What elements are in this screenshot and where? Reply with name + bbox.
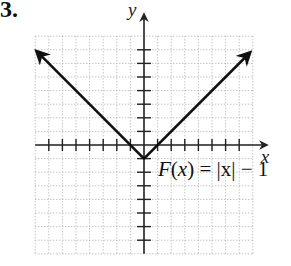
y-axis-label: y	[126, 0, 137, 20]
function-name: F	[158, 157, 171, 181]
function-var: x	[178, 157, 187, 181]
function-rhs: = |x| − 1	[199, 157, 268, 181]
function-label: F(x) = |x| − 1	[158, 157, 268, 182]
graph: xy	[0, 0, 291, 266]
